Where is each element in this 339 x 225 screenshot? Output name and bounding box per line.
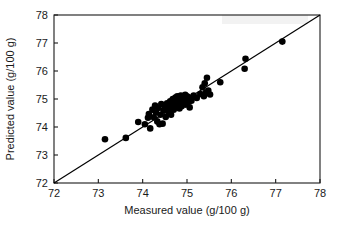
x-tick-label: 78 bbox=[314, 187, 326, 199]
y-tick-label: 75 bbox=[36, 93, 48, 105]
data-point bbox=[123, 135, 130, 142]
data-point bbox=[186, 104, 193, 111]
y-tick-label: 77 bbox=[36, 37, 48, 49]
data-point bbox=[142, 121, 149, 128]
data-point bbox=[102, 136, 109, 143]
y-axis-title: Predicted value (g/100 g) bbox=[4, 38, 16, 161]
data-point bbox=[242, 55, 249, 62]
data-point bbox=[204, 74, 211, 81]
data-point bbox=[147, 125, 154, 132]
y-tick-label: 74 bbox=[36, 121, 48, 133]
data-point bbox=[279, 38, 286, 45]
x-tick-label: 76 bbox=[225, 187, 237, 199]
y-tick-label: 73 bbox=[36, 149, 48, 161]
x-axis-ticks bbox=[54, 179, 320, 183]
data-point bbox=[217, 79, 224, 86]
y-axis-tick-labels: 72737475767778 bbox=[36, 9, 48, 189]
y-tick-label: 72 bbox=[36, 177, 48, 189]
figure-container: 72737475767778 72737475767778 Measured v… bbox=[0, 0, 339, 225]
data-point bbox=[207, 91, 214, 98]
x-axis-title: Measured value (g/100 g) bbox=[124, 204, 249, 216]
x-tick-label: 72 bbox=[48, 187, 60, 199]
watermark bbox=[222, 15, 308, 24]
x-tick-label: 74 bbox=[137, 187, 149, 199]
x-tick-label: 75 bbox=[181, 187, 193, 199]
data-point bbox=[241, 65, 248, 72]
y-tick-label: 78 bbox=[36, 9, 48, 21]
x-tick-label: 73 bbox=[92, 187, 104, 199]
x-axis-tick-labels: 72737475767778 bbox=[48, 187, 326, 199]
data-point bbox=[135, 119, 142, 126]
x-tick-label: 77 bbox=[270, 187, 282, 199]
y-tick-label: 76 bbox=[36, 65, 48, 77]
y-axis-ticks bbox=[54, 15, 58, 183]
scatter-plot: 72737475767778 72737475767778 Measured v… bbox=[0, 0, 339, 225]
data-point bbox=[159, 120, 166, 127]
